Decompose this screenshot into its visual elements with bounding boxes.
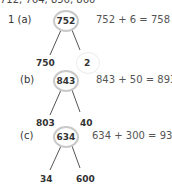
part-right: 600 <box>76 174 95 184</box>
part-right: 2 <box>84 58 90 68</box>
whole-circle: 843 <box>53 70 79 92</box>
number-bond-lines <box>0 0 172 190</box>
whole-circle: 752 <box>53 10 79 32</box>
problem-label: (b) <box>20 74 34 85</box>
problem-label: (c) <box>20 130 33 141</box>
equation: 752 + 6 = 758 <box>96 14 170 25</box>
part-left: 34 <box>40 174 53 184</box>
equation: 843 + 50 = 893 <box>96 74 172 85</box>
whole-circle: 634 <box>53 126 79 148</box>
problem-label: 1 (a) <box>8 14 31 25</box>
part-left: 750 <box>36 58 55 68</box>
part-right: 40 <box>80 118 93 128</box>
equation: 634 + 300 = 934 <box>92 130 172 141</box>
part-left: 803 <box>36 118 55 128</box>
